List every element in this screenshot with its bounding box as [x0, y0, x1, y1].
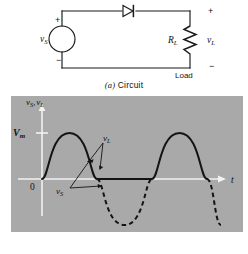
arrowhead-vL-b [99, 165, 103, 170]
curve-output-vL [42, 133, 152, 179]
source-minus-sign: − [56, 55, 61, 65]
origin-label: 0 [30, 182, 35, 192]
output-plus-sign: + [208, 6, 213, 16]
curve-output-vL-cont [152, 133, 207, 179]
peak-value-label: Vm [13, 127, 26, 140]
panel-circuit-diagram: vS + − RL vL + − Load (a) Circuit [0, 0, 248, 96]
load-label: Load [175, 71, 193, 80]
caption-panel-a: (a) Circuit [0, 80, 248, 90]
figure-halfwave-rectifier: vS + − RL vL + − Load (a) Circuit [0, 0, 248, 254]
leader-lines-vS [70, 160, 101, 188]
circuit-svg: vS + − RL vL + − Load [0, 0, 248, 80]
t-axis-label: t [231, 175, 234, 185]
y-axis-label: vS,vL [26, 97, 44, 108]
leader-lines-vL [90, 143, 103, 169]
output-voltage-label: vL [207, 35, 215, 46]
curve-label-vS: vS [56, 186, 64, 197]
source-label: vS [40, 34, 48, 45]
diode-icon [123, 5, 133, 17]
caption-a-text: Circuit [118, 80, 144, 90]
panel-waveform-plot: vS,vL Vm 0 t vL vS (b) Input and output … [0, 96, 248, 254]
source-plus-sign: + [55, 15, 60, 25]
curve-label-vL: vL [103, 133, 111, 144]
resistor-label: RL [167, 35, 178, 46]
output-minus-sign: − [209, 61, 214, 71]
waveform-svg: vS,vL Vm 0 t vL vS [0, 96, 248, 236]
x-axis-arrowhead [218, 175, 226, 182]
resistor-icon [184, 26, 196, 54]
voltage-source-symbol [49, 26, 75, 52]
caption-a-marker: (a) [105, 80, 116, 90]
curve-input-vS [97, 179, 221, 225]
